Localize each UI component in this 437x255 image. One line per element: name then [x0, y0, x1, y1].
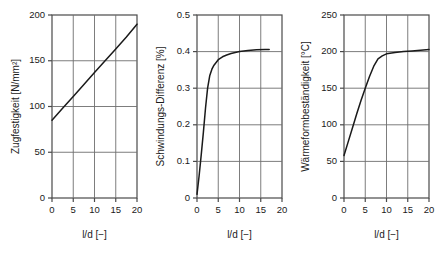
x-tick-label: 15	[402, 204, 413, 215]
y-tick-label: 0.4	[177, 45, 190, 56]
y-tick-label: 250	[321, 9, 337, 20]
x-tick-labels: 0 5 10 15 20	[194, 204, 287, 215]
plot-area-2	[193, 15, 282, 202]
y-tick-labels: 0 50 100 150 200 250	[321, 9, 337, 203]
chart-svg-2: 0 0.1 0.2 0.3 0.4 0.5 0 5 10 15 20 l/d […	[145, 0, 291, 255]
x-axis-label: l/d [−]	[374, 229, 399, 240]
chart-svg-1: 0 50 100 150 200 0 5 10 15 20 l/d [−] Zu…	[0, 0, 146, 255]
y-axis-label: Wärmeformbeständigkeit [°C]	[300, 41, 311, 172]
data-series-line	[197, 49, 269, 194]
three-panel-figure: 0 50 100 150 200 0 5 10 15 20 l/d [−] Zu…	[0, 0, 437, 255]
axis-ticks	[193, 15, 282, 202]
x-tick-label: 5	[363, 204, 368, 215]
x-tick-label: 0	[341, 204, 346, 215]
vertical-gridlines	[218, 15, 261, 198]
y-axis-label: Zugfestigkeit [N/mm²]	[10, 59, 21, 154]
y-tick-label: 50	[326, 155, 337, 166]
x-tick-label: 10	[234, 204, 245, 215]
y-tick-label: 0	[40, 192, 45, 203]
x-tick-label: 20	[277, 204, 288, 215]
y-tick-label: 0.3	[177, 82, 190, 93]
y-tick-label: 200	[29, 9, 45, 20]
y-tick-label: 0	[332, 192, 337, 203]
plot-area-3	[340, 15, 429, 202]
y-tick-label: 150	[321, 82, 337, 93]
x-axis-label: l/d [−]	[82, 229, 107, 240]
vertical-gridlines	[365, 15, 408, 198]
chart-svg-3: 0 50 100 150 200 250 0 5 10 15 20 l/d [−…	[290, 0, 437, 255]
x-tick-label: 5	[71, 204, 76, 215]
x-tick-label: 10	[381, 204, 392, 215]
chart-panel-zugfestigkeit: 0 50 100 150 200 0 5 10 15 20 l/d [−] Zu…	[0, 0, 146, 255]
x-tick-label: 5	[216, 204, 221, 215]
x-tick-label: 10	[89, 204, 100, 215]
y-tick-label: 200	[321, 45, 337, 56]
y-tick-label: 150	[29, 54, 45, 65]
chart-panel-waermeformbestaendigkeit: 0 50 100 150 200 250 0 5 10 15 20 l/d [−…	[290, 0, 436, 255]
x-tick-label: 20	[424, 204, 435, 215]
y-tick-label: 0.1	[177, 155, 190, 166]
y-tick-label: 0.5	[177, 9, 190, 20]
x-tick-label: 20	[132, 204, 143, 215]
plot-area-1	[48, 15, 137, 202]
x-tick-labels: 0 5 10 15 20	[341, 204, 434, 215]
x-tick-label: 0	[194, 204, 199, 215]
y-tick-label: 50	[34, 146, 45, 157]
y-tick-label: 100	[29, 100, 45, 111]
y-tick-labels: 0 0.1 0.2 0.3 0.4 0.5	[177, 9, 190, 203]
y-tick-labels: 0 50 100 150 200	[29, 9, 45, 203]
chart-panel-schwindungs-differenz: 0 0.1 0.2 0.3 0.4 0.5 0 5 10 15 20 l/d […	[145, 0, 291, 255]
axis-ticks	[340, 15, 429, 202]
x-tick-label: 15	[110, 204, 121, 215]
axis-ticks	[48, 15, 137, 202]
y-tick-label: 0	[185, 192, 190, 203]
x-tick-labels: 0 5 10 15 20	[49, 204, 142, 215]
x-axis-label: l/d [−]	[227, 229, 252, 240]
x-tick-label: 15	[255, 204, 266, 215]
y-axis-label: Schwindungs-Differenz [%]	[155, 46, 166, 166]
y-tick-label: 0.2	[177, 118, 190, 129]
y-tick-label: 100	[321, 118, 337, 129]
x-tick-label: 0	[49, 204, 54, 215]
